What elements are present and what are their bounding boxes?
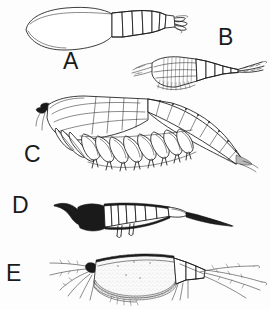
figure-c-drawing	[36, 96, 258, 172]
figure-label-d: D	[12, 194, 29, 217]
figure-label-c: C	[24, 143, 41, 166]
figure-label-b: B	[218, 26, 233, 49]
figure-a-drawing	[26, 7, 188, 50]
figure-b-drawing	[132, 57, 267, 90]
figure-e-drawing	[50, 254, 267, 306]
figure-label-e: E	[6, 262, 21, 285]
figure-d-drawing	[54, 203, 233, 238]
figure-plate: .s { fill:none; stroke:#1a1a1a; stroke-w…	[0, 0, 270, 309]
figure-label-a: A	[63, 50, 78, 73]
